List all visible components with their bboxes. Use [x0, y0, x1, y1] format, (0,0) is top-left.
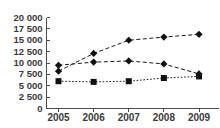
x-tick-label: 2005	[47, 112, 70, 123]
data-point-marker	[161, 75, 167, 81]
data-point-marker	[55, 62, 62, 69]
data-point-marker	[160, 33, 167, 40]
y-tick-label: 12 500	[13, 46, 42, 57]
y-tick-label: 20 000	[13, 12, 42, 23]
data-point-marker	[56, 78, 62, 84]
data-point-marker	[126, 78, 132, 84]
y-tick-label: 0	[37, 103, 42, 114]
data-point-marker	[90, 50, 97, 57]
x-tick-label: 2008	[153, 112, 176, 123]
x-tick-label: 2009	[188, 112, 211, 123]
y-tick-label: 15 000	[13, 34, 42, 45]
y-tick-label: 5 000	[19, 80, 43, 91]
data-point-marker	[91, 79, 97, 85]
x-tick-label: 2007	[118, 112, 141, 123]
data-point-marker	[195, 31, 202, 38]
x-tick-label: 2006	[83, 112, 106, 123]
data-series	[56, 73, 203, 84]
y-axis-tick-labels: 02 5005 0007 50010 00012 50015 00017 500…	[13, 12, 42, 114]
chart-canvas: 02 5005 0007 50010 00012 50015 00017 500…	[0, 0, 219, 128]
data-series	[55, 57, 203, 77]
x-axis-tick-labels: 20052006200720082009	[47, 112, 210, 123]
data-point-marker	[196, 73, 202, 79]
data-point-marker	[125, 57, 132, 64]
axis-lines	[47, 18, 220, 109]
data-series	[55, 31, 203, 75]
data-point-marker	[160, 60, 167, 67]
y-tick-label: 2 500	[19, 91, 43, 102]
y-tick-label: 10 000	[13, 57, 42, 68]
y-tick-label: 7 500	[19, 68, 43, 79]
data-series-layer	[55, 31, 203, 85]
y-tick-label: 17 500	[13, 23, 42, 34]
line-chart: 02 5005 0007 50010 00012 50015 00017 500…	[0, 0, 219, 128]
axis-tick-marks	[47, 18, 200, 112]
data-point-marker	[125, 37, 132, 44]
data-point-marker	[90, 58, 97, 65]
